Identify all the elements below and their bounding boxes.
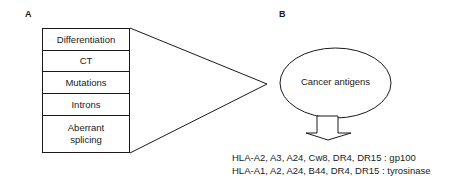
funnel-bottom-line	[130, 84, 267, 153]
category-differentiation: Differentiation	[43, 29, 129, 51]
category-mutations: Mutations	[43, 72, 129, 94]
hla-restriction-tyrosinase: HLA-A1, A2, A24, B44, DR4, DR15 : tyrosi…	[232, 164, 431, 177]
cancer-antigens-label: Cancer antigens	[280, 76, 391, 87]
hla-restriction-gp100: HLA-A2, A3, A24, Cw8, DR4, DR15 : gp100	[232, 151, 431, 164]
category-introns: Introns	[43, 94, 129, 116]
category-ct: CT	[43, 51, 129, 72]
down-arrow-icon	[306, 116, 351, 140]
funnel-top-line	[130, 28, 267, 84]
hla-restriction-list: HLA-A2, A3, A24, Cw8, DR4, DR15 : gp100 …	[232, 151, 431, 177]
category-aberrant-splicing: Aberrant splicing	[43, 116, 129, 152]
antigen-category-stack: Differentiation CT Mutations Introns Abe…	[42, 28, 130, 153]
